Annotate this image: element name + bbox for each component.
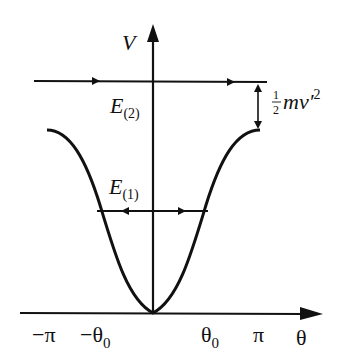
v-axis-arrow-icon (147, 24, 159, 42)
fraction-numerator: 1 (273, 88, 279, 102)
direction-arrow-icon (178, 207, 186, 215)
v-axis (147, 24, 159, 313)
energy-level-2-line (34, 77, 267, 86)
arrow-up-icon (254, 84, 262, 92)
fraction-denominator: 2 (273, 103, 279, 117)
direction-arrow-icon (92, 77, 100, 85)
v-axis-label: V (122, 30, 138, 55)
kinetic-energy-label: 1 2 mv′2 (272, 87, 320, 117)
theta-axis (20, 307, 323, 320)
tick-label-neg-pi: −π (32, 322, 56, 347)
arrow-down-icon (254, 121, 262, 129)
direction-arrow-icon (227, 78, 235, 86)
tick-label-neg-theta0: −θ0 (80, 322, 110, 351)
kinetic-energy-gap-arrow (254, 84, 262, 129)
theta-axis-arrow-icon (300, 307, 323, 320)
direction-arrow-icon (121, 207, 129, 215)
svg-text:mv′2: mv′2 (283, 87, 320, 114)
potential-diagram: V E(2) E(1) 1 2 mv′2 −π −θ0 θ0 π θ (0, 0, 347, 364)
tick-label-pi: π (253, 322, 264, 347)
theta-axis-label: θ (296, 325, 307, 350)
energy-level-2-label: E(2) (109, 93, 140, 122)
tick-label-theta0: θ0 (201, 322, 219, 351)
energy-level-1-label: E(1) (108, 174, 139, 203)
